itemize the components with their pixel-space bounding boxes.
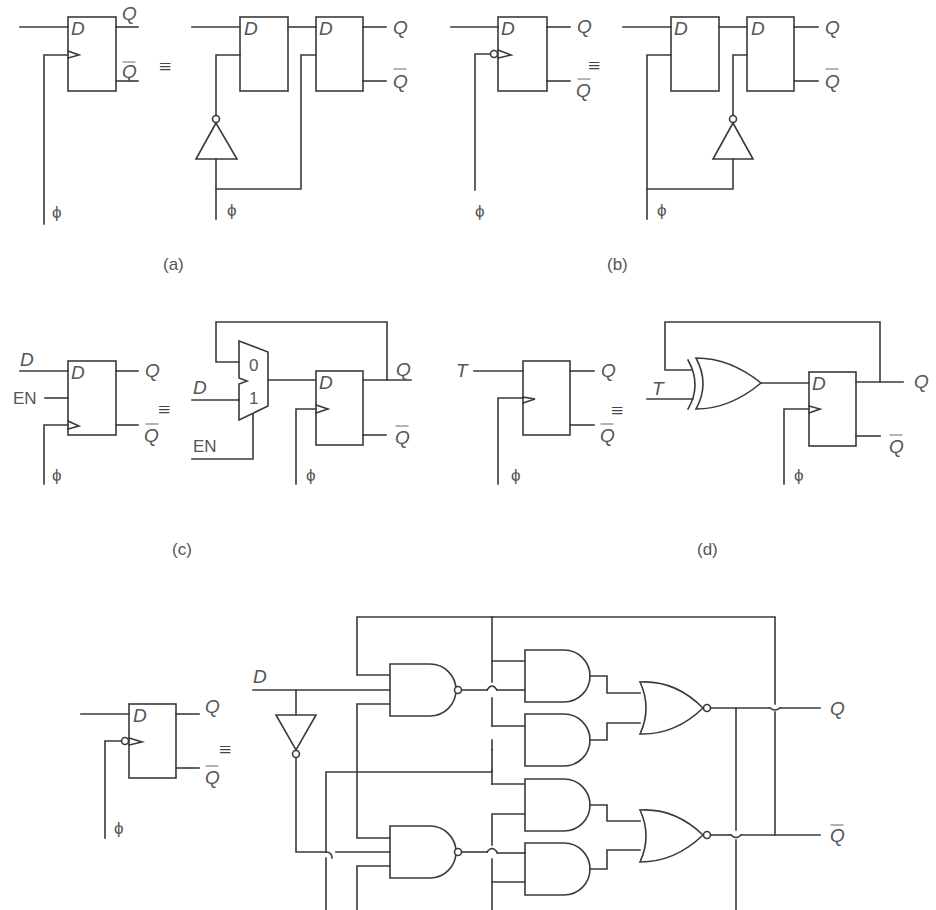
svg-text:Q: Q — [825, 17, 840, 38]
inverter — [713, 123, 753, 159]
d-input-label: D — [71, 18, 85, 39]
svg-text:D: D — [751, 18, 765, 39]
svg-text:D: D — [71, 362, 85, 383]
svg-text:≡: ≡ — [611, 398, 623, 423]
svg-text:Q: Q — [830, 698, 845, 719]
svg-text:ϕ: ϕ — [511, 466, 521, 485]
svg-text:D: D — [319, 18, 333, 39]
svg-text:Q: Q — [395, 427, 410, 448]
svg-text:Q: Q — [393, 17, 408, 38]
panel-c: D D EN Q Q ϕ ≡ 0 1 D EN D Q Q ϕ (c) — [13, 322, 411, 559]
svg-text:Q: Q — [145, 360, 160, 381]
multiplexer — [239, 341, 268, 420]
svg-text:EN: EN — [193, 437, 217, 456]
caption-d: (d) — [697, 540, 718, 559]
nand-gate-upper — [390, 664, 456, 716]
svg-text:ϕ: ϕ — [306, 466, 316, 485]
svg-text:T: T — [652, 378, 665, 399]
svg-text:Q: Q — [205, 767, 220, 788]
xor-gate — [696, 358, 761, 409]
svg-text:D: D — [674, 18, 688, 39]
qbar-output-label: Q — [122, 61, 137, 82]
nand-gate-lower — [390, 826, 456, 878]
svg-text:ϕ: ϕ — [114, 819, 124, 838]
nor-gate-upper — [640, 682, 703, 734]
and-gate-4 — [525, 843, 590, 895]
enable-label: EN — [13, 389, 37, 408]
clock-label: ϕ — [52, 203, 62, 222]
svg-text:Q: Q — [914, 371, 929, 392]
svg-text:Q: Q — [577, 16, 592, 37]
caption-a: (a) — [163, 255, 184, 274]
inverter — [276, 715, 316, 750]
svg-text:D: D — [319, 372, 333, 393]
svg-text:ϕ: ϕ — [794, 466, 804, 485]
mux-input-1: 1 — [249, 389, 258, 408]
svg-text:D: D — [244, 18, 258, 39]
svg-text:Q: Q — [600, 425, 615, 446]
nor-gate-lower — [640, 810, 703, 862]
svg-text:D: D — [193, 377, 207, 398]
svg-text:Q: Q — [576, 80, 591, 101]
svg-text:Q: Q — [601, 360, 616, 381]
svg-text:Q: Q — [396, 359, 411, 380]
mux-input-0: 0 — [249, 356, 258, 375]
svg-text:D: D — [133, 705, 147, 726]
and-gate-3 — [525, 779, 590, 831]
svg-text:D: D — [20, 349, 34, 370]
panel-d: T Q Q ϕ ≡ T D Q Q ϕ (d) — [456, 322, 929, 559]
svg-text:Q: Q — [825, 71, 840, 92]
equivalent-symbol: ≡ — [159, 54, 171, 79]
toggle-label: T — [456, 360, 469, 381]
svg-text:Q: Q — [144, 425, 159, 446]
svg-text:ϕ: ϕ — [227, 201, 237, 220]
svg-text:Q: Q — [889, 436, 904, 457]
flip-flop-diagram: D Q Q ϕ ≡ D D Q Q ϕ (a) D — [0, 0, 936, 910]
panel-e: D Q Q ϕ ≡ D — [81, 617, 845, 910]
and-gate-2 — [525, 714, 590, 766]
caption-c: (c) — [172, 540, 192, 559]
svg-text:Q: Q — [205, 696, 220, 717]
svg-text:Q: Q — [393, 71, 408, 92]
svg-text:ϕ: ϕ — [657, 201, 667, 220]
svg-text:ϕ: ϕ — [475, 202, 485, 221]
svg-text:≡: ≡ — [588, 53, 600, 78]
svg-text:≡: ≡ — [158, 397, 170, 422]
svg-text:D: D — [253, 666, 267, 687]
and-gate-1 — [525, 650, 590, 702]
svg-text:≡: ≡ — [219, 737, 231, 762]
svg-text:Q: Q — [830, 825, 845, 846]
svg-text:D: D — [812, 373, 826, 394]
panel-b: D Q Q ϕ ≡ D D Q Q ϕ (b) — [451, 16, 840, 274]
q-output-label: Q — [122, 3, 137, 24]
inverter — [196, 123, 237, 159]
svg-text:D: D — [501, 18, 515, 39]
svg-text:ϕ: ϕ — [52, 466, 62, 485]
caption-b: (b) — [607, 255, 628, 274]
panel-a: D Q Q ϕ ≡ D D Q Q ϕ (a) — [20, 3, 408, 274]
